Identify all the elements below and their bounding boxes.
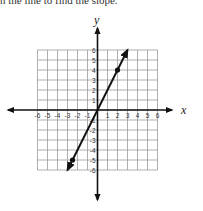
- point-marker: [115, 67, 120, 72]
- x-tick-label: 2: [116, 112, 120, 119]
- x-tick-label: 6: [156, 112, 160, 119]
- y-tick-label: -2: [90, 127, 96, 134]
- y-tick-label: 3: [92, 77, 96, 84]
- y-tick-label: -5: [90, 157, 96, 164]
- y-tick-label: -3: [90, 137, 96, 144]
- y-tick-label: 4: [92, 67, 96, 74]
- y-tick-label: -6: [90, 167, 96, 174]
- y-tick-label: 5: [92, 57, 96, 64]
- x-tick-label: -3: [65, 112, 71, 119]
- point-marker: [70, 157, 75, 162]
- coordinate-plane: -6-5-4-3-2-1123456654321-1-2-3-4-5-6 x y: [0, 0, 203, 211]
- y-tick-label: 1: [92, 97, 96, 104]
- y-tick-label: -4: [90, 147, 96, 154]
- x-tick-label: -4: [55, 112, 61, 119]
- x-tick-label: -2: [75, 112, 81, 119]
- x-tick-label: 5: [146, 112, 150, 119]
- x-tick-label: -5: [45, 112, 51, 119]
- y-axis-label: y: [93, 13, 100, 27]
- y-tick-label: 2: [92, 87, 96, 94]
- x-tick-label: -6: [35, 112, 41, 119]
- x-tick-label: 4: [136, 112, 140, 119]
- y-tick-label: 6: [92, 47, 96, 54]
- x-tick-label: 1: [106, 112, 110, 119]
- x-tick-label: 3: [126, 112, 130, 119]
- x-axis-label: x: [180, 103, 187, 117]
